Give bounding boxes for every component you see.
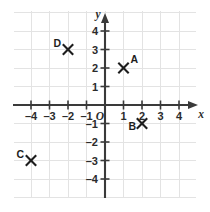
point-label-d: D (53, 37, 61, 49)
point-label-c: C (16, 148, 24, 160)
point-label-b: B (128, 120, 136, 132)
x-axis-tick-label: –2 (62, 110, 74, 122)
y-axis-tick-label: 1 (92, 81, 98, 93)
y-axis-tick-label: 4 (92, 25, 99, 37)
x-axis-tick-label: –3 (43, 110, 55, 122)
point-label-a: A (131, 53, 139, 65)
coordinate-plane: –4–3–2–112344321–1–2–3–4 Oxy ABCD (0, 0, 210, 212)
y-axis-tick-label: 3 (92, 44, 98, 56)
y-axis-tick-label: –4 (86, 173, 99, 185)
origin-label: O (96, 110, 104, 122)
x-axis-tick-label: 4 (176, 110, 183, 122)
y-axis-label: y (93, 8, 101, 21)
y-axis-tick-label: 2 (92, 62, 98, 74)
x-axis-tick-label: 3 (157, 110, 163, 122)
y-axis-tick-label: –2 (86, 136, 98, 148)
x-axis-tick-label: –4 (25, 110, 38, 122)
x-axis-tick-label: 1 (120, 110, 126, 122)
x-axis-label: x (197, 108, 204, 120)
y-axis-tick-label: –3 (86, 155, 98, 167)
